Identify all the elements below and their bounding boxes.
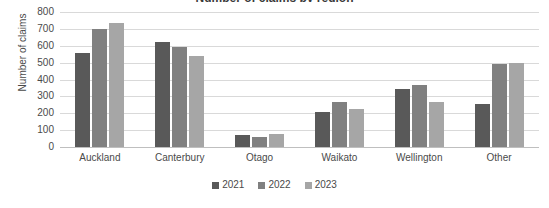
bar-group <box>379 12 459 147</box>
plot-area <box>60 12 539 147</box>
legend-entry[interactable]: 2023 <box>305 180 337 190</box>
bar[interactable] <box>75 53 90 148</box>
bar[interactable] <box>395 89 410 147</box>
x-axis-tick-label: Canterbury <box>140 152 220 163</box>
x-axis-tick-label: Auckland <box>60 152 140 163</box>
x-axis-tick-label: Other <box>459 152 539 163</box>
x-axis-tick-label: Waikato <box>300 152 380 163</box>
legend-label: 2023 <box>315 180 337 190</box>
legend-swatch-icon <box>305 182 312 189</box>
bar[interactable] <box>509 63 524 147</box>
y-axis-tick-label: 600 <box>20 41 54 51</box>
bar[interactable] <box>189 56 204 147</box>
bar[interactable] <box>269 134 284 147</box>
bar[interactable] <box>429 102 444 147</box>
bar[interactable] <box>315 112 330 147</box>
chart-legend: 202120222023 <box>0 180 549 190</box>
bar[interactable] <box>235 135 250 147</box>
bar[interactable] <box>492 64 507 147</box>
legend-swatch-icon <box>212 182 219 189</box>
bar[interactable] <box>172 47 187 147</box>
legend-entry[interactable]: 2021 <box>212 180 244 190</box>
y-axis-tick-label: 0 <box>20 142 54 152</box>
bar[interactable] <box>332 102 347 147</box>
legend-label: 2022 <box>268 180 290 190</box>
bar[interactable] <box>252 137 267 147</box>
bar-group <box>300 12 380 147</box>
bar[interactable] <box>109 23 124 147</box>
y-axis-tick-label: 200 <box>20 108 54 118</box>
x-axis-tick-label: Otago <box>220 152 300 163</box>
legend-entry[interactable]: 2022 <box>258 180 290 190</box>
y-axis-tick-label: 300 <box>20 91 54 101</box>
bar-chart-figure: Number of claims by region Number of cla… <box>0 0 549 208</box>
bar[interactable] <box>349 109 364 147</box>
bar[interactable] <box>92 29 107 147</box>
y-axis-tick-label: 400 <box>20 75 54 85</box>
bar[interactable] <box>155 42 170 147</box>
x-axis-tick-labels: AucklandCanterburyOtagoWaikatoWellington… <box>60 152 539 166</box>
bar[interactable] <box>475 104 490 147</box>
chart-title: Number of claims by region <box>0 0 549 2</box>
x-axis-tick-label: Wellington <box>379 152 459 163</box>
bar-group <box>140 12 220 147</box>
y-axis-tick-label: 700 <box>20 24 54 34</box>
y-axis-tick-labels: 8007006005004003002001000 <box>18 12 54 147</box>
bar-group <box>459 12 539 147</box>
y-axis-tick-label: 800 <box>20 7 54 17</box>
y-axis-tick-label: 500 <box>20 58 54 68</box>
bar-group <box>60 12 140 147</box>
bar[interactable] <box>412 85 427 147</box>
y-axis-tick-label: 100 <box>20 125 54 135</box>
legend-swatch-icon <box>258 182 265 189</box>
x-axis-line <box>60 147 539 148</box>
bar-group <box>220 12 300 147</box>
legend-label: 2021 <box>222 180 244 190</box>
